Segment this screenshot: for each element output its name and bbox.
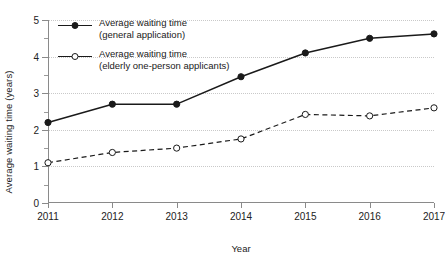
data-point-2011 xyxy=(45,160,51,166)
legend-item-elderly: Average waiting time (elderly one-person… xyxy=(58,48,229,71)
x-tick-2013 xyxy=(177,203,178,208)
legend-label-elderly-line1: Average waiting time xyxy=(99,48,229,60)
legend-label-general-line1: Average waiting time xyxy=(99,17,187,29)
data-point-2017 xyxy=(431,105,437,111)
legend-marker-filled-circle xyxy=(58,21,92,30)
x-tick-2012 xyxy=(112,203,113,208)
x-tick-2011 xyxy=(48,203,49,208)
data-point-2014 xyxy=(238,136,244,142)
x-tick-label-2012: 2012 xyxy=(101,211,123,222)
y-tick-label-0: 0 xyxy=(33,198,39,209)
legend-label-elderly: Average waiting time (elderly one-person… xyxy=(99,48,229,71)
series-elderly xyxy=(45,105,437,166)
x-tick-2015 xyxy=(305,203,306,208)
data-point-2013 xyxy=(174,101,180,107)
x-tick-label-2013: 2013 xyxy=(166,211,188,222)
y-tick-label-2: 2 xyxy=(33,124,39,135)
data-point-2015 xyxy=(302,50,308,56)
legend-item-general: Average waiting time (general applicatio… xyxy=(58,17,229,40)
x-tick-2014 xyxy=(241,203,242,208)
data-point-2012 xyxy=(109,101,115,107)
x-tick-label-2015: 2015 xyxy=(294,211,316,222)
data-point-2016 xyxy=(367,35,373,41)
y-tick-label-5: 5 xyxy=(33,15,39,26)
data-point-2017 xyxy=(431,31,437,37)
chart-legend: Average waiting time (general applicatio… xyxy=(58,17,229,71)
data-point-2013 xyxy=(174,145,180,151)
x-tick-label-2011: 2011 xyxy=(37,211,59,222)
data-point-2015 xyxy=(302,111,308,117)
legend-marker-open-circle xyxy=(58,52,92,61)
legend-label-general: Average waiting time (general applicatio… xyxy=(99,17,187,40)
x-tick-2016 xyxy=(370,203,371,208)
data-point-2011 xyxy=(45,119,51,125)
series-line xyxy=(48,108,434,163)
x-tick-label-2014: 2014 xyxy=(230,211,252,222)
x-tick-label-2016: 2016 xyxy=(359,211,381,222)
y-tick-label-3: 3 xyxy=(33,88,39,99)
x-tick-2017 xyxy=(434,203,435,208)
data-point-2016 xyxy=(367,113,373,119)
y-tick-label-4: 4 xyxy=(33,51,39,62)
plot-area: 012345 2011201220132014201520162017 Aver… xyxy=(48,20,434,203)
data-point-2012 xyxy=(109,149,115,155)
x-tick-label-2017: 2017 xyxy=(423,211,445,222)
y-axis-title: Average waiting time (years) xyxy=(0,0,16,264)
y-tick-label-1: 1 xyxy=(33,161,39,172)
legend-label-elderly-line2: (elderly one-person applicants) xyxy=(99,60,229,72)
data-point-2014 xyxy=(238,74,244,80)
x-axis-title: Year xyxy=(48,243,434,254)
legend-label-general-line2: (general application) xyxy=(99,29,187,41)
